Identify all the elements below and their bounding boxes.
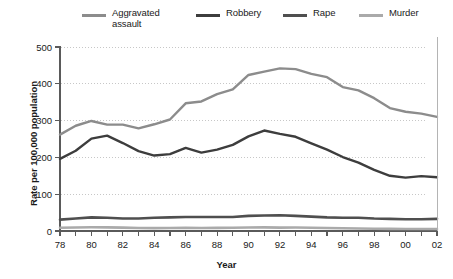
series-line: [60, 68, 437, 134]
y-axis-ticks: 0100200300400500: [36, 42, 60, 237]
y-axis-label: Rate per 100,000 population: [28, 49, 39, 239]
svg-text:96: 96: [337, 239, 348, 250]
svg-text:88: 88: [212, 239, 223, 250]
series-line: [60, 131, 437, 178]
line-chart: Aggravated assault Robbery Rape Murder 0…: [0, 0, 453, 279]
svg-text:300: 300: [36, 115, 52, 126]
svg-text:86: 86: [180, 239, 191, 250]
plot-svg: 0100200300400500 78808284868890929496980…: [0, 0, 453, 279]
svg-text:00: 00: [400, 239, 411, 250]
svg-text:84: 84: [149, 239, 160, 250]
series-line: [60, 215, 437, 219]
x-axis-label: Year: [0, 259, 453, 270]
svg-text:0: 0: [47, 226, 52, 237]
svg-text:100: 100: [36, 189, 52, 200]
svg-text:400: 400: [36, 78, 52, 89]
svg-text:94: 94: [306, 239, 317, 250]
svg-text:500: 500: [36, 42, 52, 53]
svg-text:78: 78: [55, 239, 66, 250]
svg-text:98: 98: [369, 239, 380, 250]
plot-area: 0100200300400500 78808284868890929496980…: [0, 0, 453, 279]
svg-text:02: 02: [432, 239, 443, 250]
x-axis-ticks: 78808284868890929496980002: [55, 231, 443, 250]
svg-text:82: 82: [118, 239, 129, 250]
series-line: [60, 227, 437, 229]
svg-text:80: 80: [86, 239, 97, 250]
svg-text:92: 92: [275, 239, 286, 250]
data-series-group: [60, 68, 437, 229]
svg-text:90: 90: [243, 239, 254, 250]
svg-text:200: 200: [36, 152, 52, 163]
